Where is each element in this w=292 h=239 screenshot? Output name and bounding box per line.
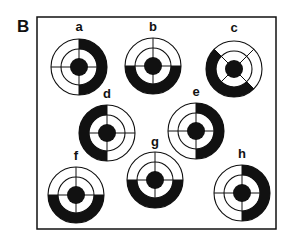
target-c: c <box>206 20 262 97</box>
center-dot <box>146 171 164 189</box>
target-d: d <box>79 86 135 161</box>
target-b: b <box>125 19 181 94</box>
center-dot <box>70 58 88 76</box>
target-f: f <box>48 148 104 223</box>
panel-label: B <box>17 17 29 36</box>
target-label: b <box>149 19 157 34</box>
target-label: e <box>192 84 199 99</box>
target-label: f <box>74 148 79 163</box>
diagram-canvas: B abcdefgh <box>0 0 292 239</box>
target-e: e <box>168 84 224 159</box>
targets-group: abcdefgh <box>48 19 270 223</box>
center-dot <box>233 184 251 202</box>
target-h: h <box>214 146 270 221</box>
target-label: c <box>230 20 237 35</box>
target-label: d <box>103 86 111 101</box>
target-label: g <box>151 134 159 149</box>
center-dot <box>67 186 85 204</box>
target-a: a <box>51 19 107 95</box>
center-dot <box>187 122 205 140</box>
target-g: g <box>127 134 183 208</box>
center-dot <box>225 60 243 78</box>
target-label: a <box>75 19 83 34</box>
center-dot <box>144 57 162 75</box>
center-dot <box>98 124 116 142</box>
target-label: h <box>238 146 246 161</box>
